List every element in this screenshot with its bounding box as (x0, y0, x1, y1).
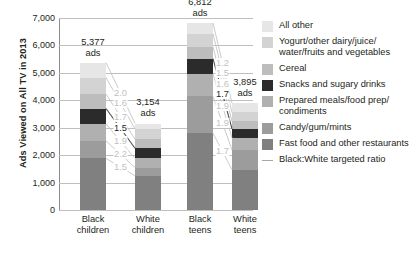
gridline (59, 18, 253, 19)
y-axis-tick-label: 5,000 (32, 68, 55, 78)
bar-total-unit: ads (237, 88, 252, 98)
bar-segment (80, 63, 106, 78)
ratio-label: 1.9 (215, 118, 230, 128)
bar-segment (232, 121, 258, 128)
ratio-label: 1.2 (215, 58, 230, 68)
bar-total-unit: ads (140, 108, 155, 118)
bar-segment (187, 47, 213, 59)
legend-color-swatch (262, 37, 273, 48)
category-label-line: White (233, 214, 257, 224)
bar-segment (80, 141, 106, 159)
x-axis-label-white-teens: Whiteteens (216, 214, 274, 236)
legend-item[interactable]: Yogurt/other dairy/juice/ water/fruits a… (262, 36, 420, 59)
legend-item[interactable]: Cereal (262, 63, 420, 75)
legend-color-swatch (262, 80, 273, 91)
bar-white-teens[interactable] (232, 103, 258, 210)
y-axis-tick-label: 3,000 (32, 123, 55, 133)
x-axis-label-white-children: Whitechildren (119, 214, 177, 236)
bar-segment (232, 170, 258, 210)
category-label-line: Black (82, 214, 105, 224)
bar-total-label: 3,154ads (136, 97, 159, 119)
y-axis-tick-label: 0 (50, 205, 55, 215)
bar-white-children[interactable] (135, 124, 161, 210)
chart-root: Ads Viewed on All TV in 2013 01,0002,000… (0, 0, 420, 261)
legend-item-label: Black:White targeted ratio (279, 154, 385, 165)
bar-total-unit: ads (192, 8, 207, 18)
bar-segment (232, 150, 258, 170)
bar-segment (187, 74, 213, 96)
bar-segment (187, 133, 213, 210)
y-axis-tick-label: 1,000 (32, 178, 55, 188)
legend-item-label: All other (279, 20, 313, 31)
y-axis-tick-label: 6,000 (32, 40, 55, 50)
legend-item[interactable]: Candy/gum/mints (262, 122, 420, 134)
ratio-label: 1.7 (215, 89, 230, 99)
bar-segment (187, 59, 213, 74)
category-label-line: teens (234, 225, 257, 235)
ratio-label: 1.7 (113, 112, 128, 122)
legend-color-swatch (262, 21, 273, 32)
ratio-label: 1.5 (113, 162, 128, 172)
ratio-label: 1.5 (215, 68, 230, 78)
bar-total-value: 3,154 (136, 97, 159, 107)
legend-item-label: Fast food and other restaurants (279, 138, 409, 149)
ratio-label: 1.9 (215, 101, 230, 111)
legend-item-label: Cereal (279, 63, 306, 74)
legend-item[interactable]: Prepared meals/food prep/ condiments (262, 95, 420, 118)
bar-black-teens[interactable] (187, 23, 213, 210)
bar-segment (80, 109, 106, 124)
category-label-line: Black (189, 214, 212, 224)
bar-segment (187, 34, 213, 47)
y-axis-tick-label: 7,000 (32, 13, 55, 23)
bar-segment (80, 78, 106, 94)
chart-legend: All otherYogurt/other dairy/juice/ water… (262, 20, 420, 169)
category-label-line: children (77, 225, 110, 235)
bar-segment (80, 124, 106, 141)
bar-total-label: 3,895ads (233, 77, 256, 99)
x-axis-label-black-children: Blackchildren (64, 214, 122, 236)
legend-item[interactable]: Black:White targeted ratio (262, 154, 420, 165)
legend-item-label: Yogurt/other dairy/juice/ water/fruits a… (279, 36, 420, 59)
legend-item[interactable]: Snacks and sugary drinks (262, 79, 420, 91)
bar-segment (187, 96, 213, 133)
y-axis-title: Ads Viewed on All TV in 2013 (18, 18, 28, 188)
category-label-line: White (136, 214, 160, 224)
plot-area: 01,0002,0003,0004,0005,0006,0007,000 5,3… (59, 18, 253, 210)
bar-total-unit: ads (85, 48, 100, 58)
bar-total-value: 5,377 (81, 37, 104, 47)
category-label-line: children (132, 225, 165, 235)
gridline (59, 210, 253, 211)
legend-color-swatch (262, 139, 273, 150)
y-axis-tick-label: 2,000 (32, 150, 55, 160)
bar-segment (135, 139, 161, 148)
ratio-label: 2.2 (113, 149, 128, 159)
bar-black-children[interactable] (80, 63, 106, 210)
bar-segment (135, 158, 161, 167)
legend-item[interactable]: Fast food and other restaurants (262, 138, 420, 150)
bar-segment (135, 148, 161, 158)
bar-segment (232, 112, 258, 121)
legend-item[interactable]: All other (262, 20, 420, 32)
legend-item-label: Prepared meals/food prep/ condiments (279, 95, 420, 118)
bar-segment (232, 103, 258, 112)
y-axis-line (59, 18, 60, 210)
bar-total-label: 6,812ads (188, 0, 211, 19)
ratio-label: 1.6 (215, 79, 230, 89)
legend-item-label: Snacks and sugary drinks (279, 79, 385, 90)
ratio-label: 2.0 (113, 88, 128, 98)
bar-segment (135, 129, 161, 139)
bar-total-value: 3,895 (233, 77, 256, 87)
y-axis-tick-label: 4,000 (32, 95, 55, 105)
category-label-line: teens (189, 225, 212, 235)
ratio-label: 1.9 (113, 136, 128, 146)
bar-total-value: 6,812 (188, 0, 211, 7)
legend-color-swatch (262, 123, 273, 134)
legend-color-swatch (262, 64, 273, 75)
ratio-label: 1.6 (113, 98, 128, 108)
bar-segment (232, 129, 258, 138)
bar-segment (80, 158, 106, 210)
bar-total-label: 5,377ads (81, 37, 104, 59)
bar-segment (80, 94, 106, 109)
bar-segment (232, 138, 258, 150)
ratio-label: 1.7 (215, 146, 230, 156)
